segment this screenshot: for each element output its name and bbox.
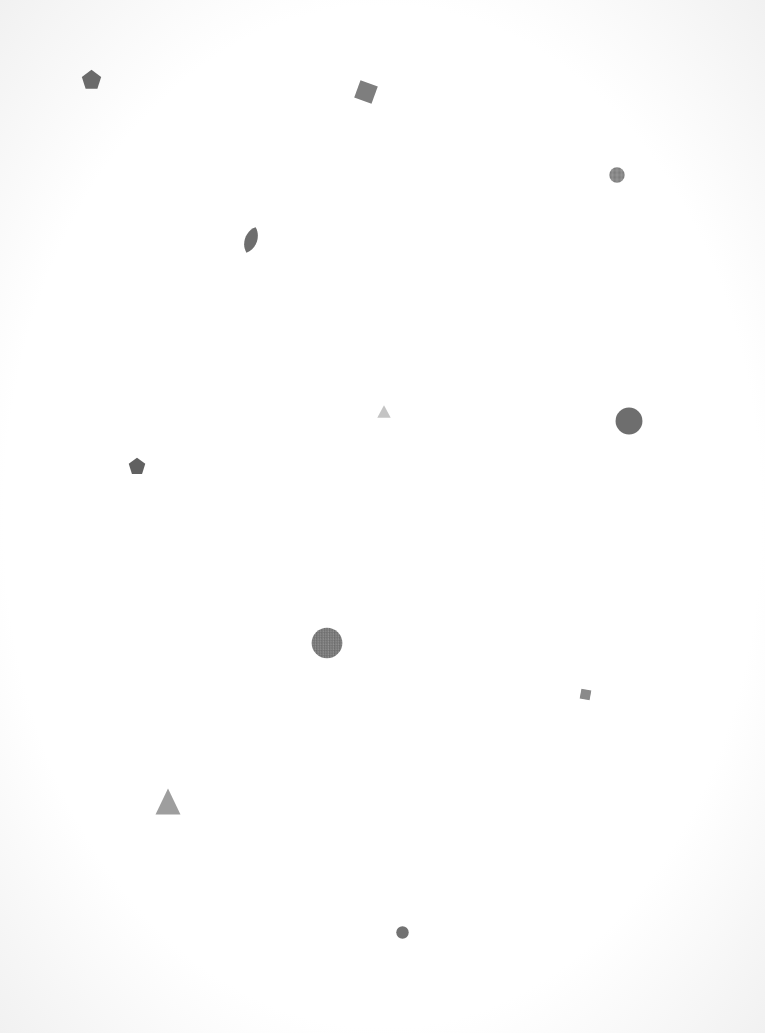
circle-shape[interactable] [311,627,343,659]
triangle-shape[interactable] [377,405,391,418]
square-shape[interactable] [353,79,379,105]
circle-shape[interactable] [396,926,409,939]
square-shape[interactable] [579,688,592,701]
circle-shape[interactable] [609,167,625,183]
pentagon-shape[interactable] [128,457,146,475]
circle-shape[interactable] [615,407,643,435]
leaf-shape[interactable] [238,224,264,256]
triangle-shape[interactable] [155,788,181,815]
pentagon-shape[interactable] [81,69,102,90]
shape-canvas [0,0,765,1033]
